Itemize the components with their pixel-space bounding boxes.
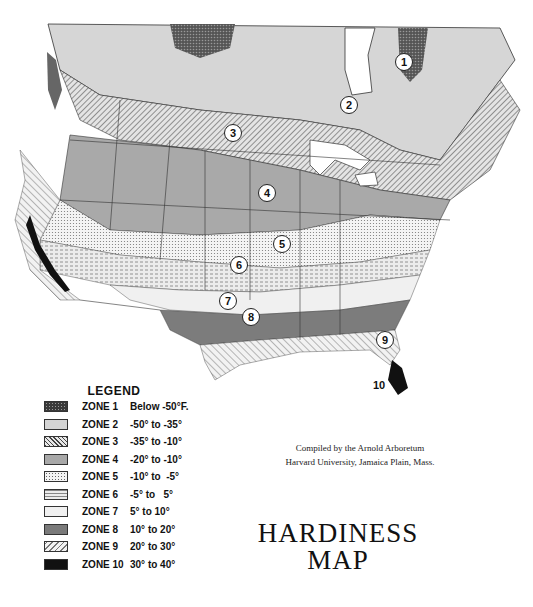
legend-zone-range: 10° to 20° <box>130 524 175 535</box>
legend-zone-name: ZONE 4 <box>82 454 130 465</box>
credit-line-2: Harvard University, Jamaica Plain, Mass. <box>255 455 465 469</box>
legend-zone-name: ZONE 8 <box>82 524 130 535</box>
legend-item: ZONE 1030° to 40° <box>44 556 244 574</box>
legend-zone-range: -50° to -35° <box>130 419 182 430</box>
legend: LEGEND ZONE 1Below -50°F.ZONE 2-50° to -… <box>44 384 244 573</box>
zone-marker-7: 7 <box>219 292 237 310</box>
zone-marker-2: 2 <box>340 96 358 114</box>
legend-zone-range: -35° to -10° <box>130 436 182 447</box>
legend-item: ZONE 4-20° to -10° <box>44 451 244 469</box>
legend-title: LEGEND <box>44 384 184 398</box>
zone-marker-6: 6 <box>230 256 248 274</box>
legend-zone-name: ZONE 7 <box>82 506 130 517</box>
zone-marker-9: 9 <box>376 331 394 349</box>
legend-rows: ZONE 1Below -50°F.ZONE 2-50° to -35°ZONE… <box>44 398 244 573</box>
legend-zone-name: ZONE 2 <box>82 419 130 430</box>
legend-swatch-icon <box>44 524 68 535</box>
legend-zone-name: ZONE 6 <box>82 489 130 500</box>
legend-item: ZONE 920° to 30° <box>44 538 244 556</box>
legend-swatch-icon <box>44 401 68 412</box>
legend-zone-name: ZONE 3 <box>82 436 130 447</box>
map-title: HARDINESS MAP <box>238 520 438 574</box>
legend-item: ZONE 2-50° to -35° <box>44 416 244 434</box>
legend-swatch-icon <box>44 489 68 500</box>
legend-item: ZONE 5-10° to -5° <box>44 468 244 486</box>
legend-zone-range: 5° to 10° <box>130 506 170 517</box>
credit-line-1: Compiled by the Arnold Arboretum <box>255 441 465 455</box>
zone-marker-10: 10 <box>371 377 387 393</box>
title-line-1: HARDINESS <box>238 520 438 547</box>
zone-marker-4: 4 <box>258 184 276 202</box>
legend-zone-name: ZONE 1 <box>82 401 130 412</box>
zone-marker-5: 5 <box>273 235 291 253</box>
legend-zone-range: Below -50°F. <box>130 401 188 412</box>
credit-text: Compiled by the Arnold Arboretum Harvard… <box>255 441 465 469</box>
legend-zone-name: ZONE 9 <box>82 541 130 552</box>
legend-item: ZONE 6-5° to 5° <box>44 486 244 504</box>
legend-swatch-icon <box>44 454 68 465</box>
zone-marker-8: 8 <box>242 308 260 326</box>
zone-10-region <box>388 360 408 395</box>
legend-zone-name: ZONE 5 <box>82 471 130 482</box>
legend-item: ZONE 1Below -50°F. <box>44 398 244 416</box>
zone-marker-1: 1 <box>395 53 413 71</box>
legend-zone-name: ZONE 10 <box>82 559 130 570</box>
legend-item: ZONE 810° to 20° <box>44 521 244 539</box>
legend-swatch-icon <box>44 419 68 430</box>
legend-zone-range: -10° to -5° <box>130 471 179 482</box>
legend-swatch-icon <box>44 559 68 570</box>
legend-zone-range: -5° to 5° <box>130 489 173 500</box>
legend-zone-range: 20° to 30° <box>130 541 175 552</box>
legend-swatch-icon <box>44 471 68 482</box>
legend-item: ZONE 3-35° to -10° <box>44 433 244 451</box>
legend-zone-range: 30° to 40° <box>130 559 175 570</box>
legend-zone-range: -20° to -10° <box>130 454 182 465</box>
title-line-2: MAP <box>238 547 438 574</box>
legend-swatch-icon <box>44 436 68 447</box>
legend-item: ZONE 75° to 10° <box>44 503 244 521</box>
legend-swatch-icon <box>44 541 68 552</box>
zone-marker-3: 3 <box>224 124 242 142</box>
legend-swatch-icon <box>44 506 68 517</box>
